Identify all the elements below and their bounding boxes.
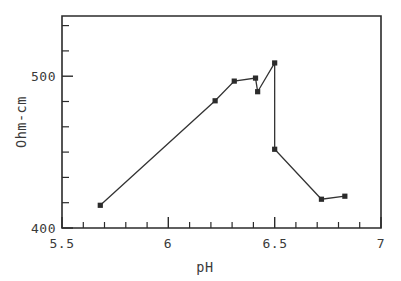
data-point-marker: [272, 147, 277, 152]
data-point-marker: [213, 98, 218, 103]
chart-figure: 500 400 5.5 6 6.5 7 pH Ohm-cm: [0, 0, 401, 281]
data-point-marker: [98, 203, 103, 208]
y-tick-label-400: 400: [31, 221, 56, 236]
data-point-marker: [253, 75, 258, 80]
x-tick-label-7: 7: [377, 236, 385, 251]
x-tick-label-6-5: 6.5: [263, 236, 288, 251]
x-tick-label-6: 6: [164, 236, 172, 251]
data-point-marker: [232, 79, 237, 84]
chart-svg: 500 400 5.5 6 6.5 7 pH Ohm-cm: [0, 0, 401, 281]
data-point-marker: [319, 197, 324, 202]
y-axis-title: Ohm-cm: [13, 96, 29, 148]
y-tick-label-500: 500: [31, 69, 56, 84]
data-point-marker: [272, 60, 277, 65]
data-point-marker: [342, 194, 347, 199]
x-tick-label-5-5: 5.5: [50, 236, 75, 251]
x-axis-title: pH: [196, 259, 213, 275]
data-point-marker: [255, 89, 260, 94]
